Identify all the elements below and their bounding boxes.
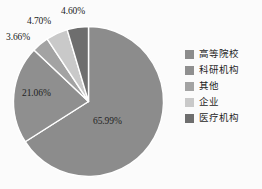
slice-label-2: 3.66% xyxy=(6,32,30,42)
slice-label-4: 4.60% xyxy=(61,6,85,16)
slice-label-1: 21.06% xyxy=(22,88,51,98)
legend-item-label: 企业 xyxy=(199,97,219,107)
legend-swatch-icon xyxy=(185,114,194,123)
slice-label-3: 4.70% xyxy=(27,16,51,26)
legend-item-label: 科研机构 xyxy=(199,65,239,75)
pie-slices xyxy=(14,27,164,177)
legend-item-2[interactable]: 其他 xyxy=(185,78,262,94)
legend-swatch-icon xyxy=(185,82,194,91)
legend-swatch-icon xyxy=(185,50,194,59)
slice-label-0: 65.99% xyxy=(93,116,122,126)
legend-swatch-icon xyxy=(185,98,194,107)
pie-chart-figure: 65.99% 21.06% 3.66% 4.70% 4.60% 高等院校 科研机… xyxy=(0,0,262,189)
legend-item-label: 医疗机构 xyxy=(199,113,239,123)
legend-item-0[interactable]: 高等院校 xyxy=(185,46,262,62)
legend-item-1[interactable]: 科研机构 xyxy=(185,62,262,78)
legend-item-4[interactable]: 医疗机构 xyxy=(185,110,262,126)
legend-item-label: 其他 xyxy=(199,81,219,91)
legend-item-label: 高等院校 xyxy=(199,49,239,59)
legend-swatch-icon xyxy=(185,66,194,75)
chart-legend: 高等院校 科研机构 其他 企业 医疗机构 xyxy=(185,46,262,126)
legend-item-3[interactable]: 企业 xyxy=(185,94,262,110)
pie-plot-area: 65.99% 21.06% 3.66% 4.70% 4.60% xyxy=(0,0,178,189)
